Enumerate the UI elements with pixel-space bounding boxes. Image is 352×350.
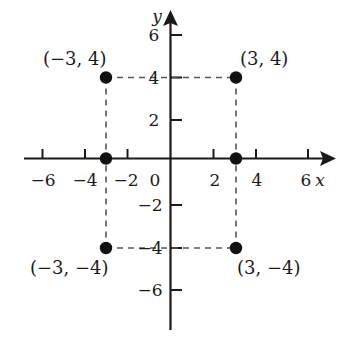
x-tick-label-6: 6 [301,172,312,189]
x-tick-label-neg6: −6 [30,172,55,189]
x-tick-label-2: 2 [210,172,221,189]
point-label-neg3-4: (−3, 4) [43,50,106,68]
point-3-4 [230,71,242,83]
y-tick-label-6: 6 [149,27,160,44]
y-tick-label-neg4: −4 [137,240,162,257]
x-tick-label-neg2: −2 [113,172,138,189]
origin-label: 0 [150,172,161,189]
point-neg3-neg4 [100,242,112,254]
point-3-0 [230,152,242,164]
y-tick-label-2: 2 [149,112,160,129]
y-tick-label-4: 4 [149,70,160,87]
point-neg3-4 [100,71,112,83]
point-3-neg4 [230,242,242,254]
y-tick-label-neg6: −6 [137,282,162,299]
point-label-3-neg4: (3, −4) [237,259,300,277]
point-neg3-0 [100,152,112,164]
x-tick-label-4: 4 [252,172,263,189]
x-tick-label-neg4: −4 [72,172,97,189]
x-axis-name: x [315,172,325,189]
x-axis-ticks [43,149,309,159]
coordinate-plane-figure: −6 −4 −2 2 4 6 0 6 4 2 −2 −4 −6 x y (−3,… [0,0,352,350]
y-tick-label-neg2: −2 [137,197,162,214]
x-axis [24,151,336,166]
point-label-neg3-neg4: (−3, −4) [30,259,109,277]
y-axis [163,10,178,330]
y-axis-name: y [152,8,162,25]
point-label-3-4: (3, 4) [240,50,288,68]
y-axis-ticks [171,35,183,290]
